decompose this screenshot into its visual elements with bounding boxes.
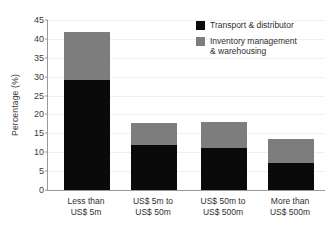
x-axis-category-label: More than US$ 500m [255, 196, 325, 218]
legend-item-label: Inventory management & warehousing [210, 36, 297, 57]
y-axis-title: Percentage (%) [10, 20, 24, 190]
legend-item: Inventory management & warehousing [196, 36, 331, 57]
bar-stack [201, 122, 247, 190]
bar-stack [268, 139, 314, 190]
y-axis-tick-label: 10 [34, 147, 44, 157]
y-axis-tick-label: 5 [39, 166, 44, 176]
y-axis-tick-mark [45, 95, 48, 96]
bar-segment [268, 163, 314, 190]
y-axis-tick-label: 20 [34, 109, 44, 119]
y-axis-tick-label: 35 [34, 53, 44, 63]
bar-segment [64, 32, 110, 80]
y-axis-tick-label: 0 [39, 185, 44, 195]
y-axis-tick-mark [45, 76, 48, 77]
legend-item: Transport & distributor [196, 20, 331, 31]
bar-segment [64, 80, 110, 190]
y-axis-tick-label: 15 [34, 128, 44, 138]
y-axis-tick-label: 45 [34, 15, 44, 25]
bar-segment [201, 122, 247, 148]
bar-stack [64, 32, 110, 190]
x-axis-category-label: US$ 50m to US$ 500m [188, 196, 258, 218]
bar-segment [268, 139, 314, 163]
y-axis-tick-mark [45, 114, 48, 115]
y-axis-tick-mark [45, 20, 48, 21]
y-axis-tick-mark [45, 57, 48, 58]
y-axis-tick-mark [45, 152, 48, 153]
bar-chart: Percentage (%) 051015202530354045 Less t… [0, 0, 331, 237]
y-axis-tick-label: 25 [34, 91, 44, 101]
bar-segment [131, 145, 177, 190]
y-axis-tick-label: 30 [34, 72, 44, 82]
y-axis-tick-mark [45, 133, 48, 134]
chart-legend: Transport & distributorInventory managem… [196, 20, 331, 62]
y-axis-tick-mark [45, 38, 48, 39]
y-axis-tick-mark [45, 171, 48, 172]
bar-segment [201, 148, 247, 190]
gray-swatch-icon [196, 37, 205, 46]
black-swatch-icon [196, 21, 205, 30]
legend-item-label: Transport & distributor [210, 20, 294, 31]
y-axis-tick-mark [45, 190, 48, 191]
x-axis-category-label: US$ 5m to US$ 50m [118, 196, 188, 218]
x-axis-category-label: Less than US$ 5m [51, 196, 121, 218]
bar-segment [131, 123, 177, 145]
y-axis-tick-label: 40 [34, 34, 44, 44]
bar-stack [131, 123, 177, 190]
